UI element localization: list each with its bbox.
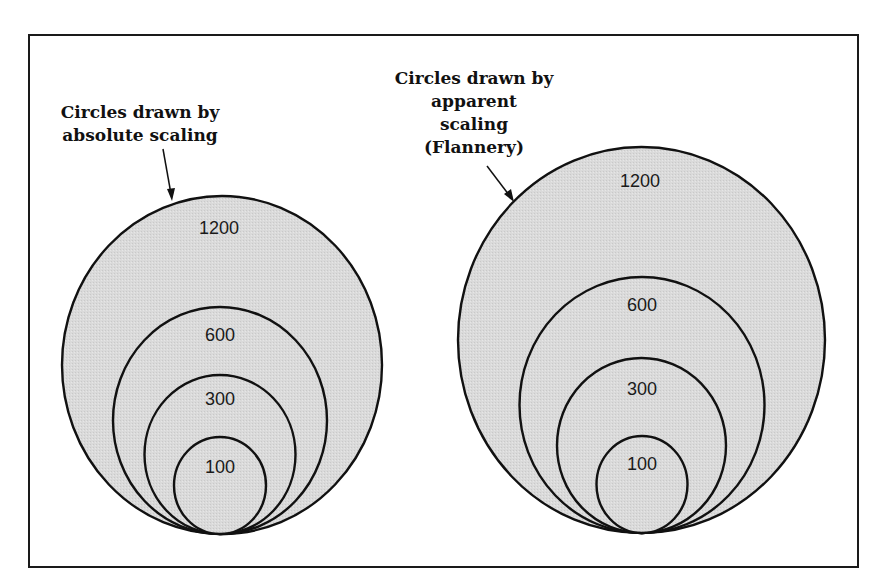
- proportional-circles-diagram: 1200 600 300 100 Circles drawn by absolu…: [0, 0, 883, 586]
- absolute-scaling-group: 1200 600 300 100 Circles drawn by absolu…: [61, 102, 382, 534]
- apparent-caption-line-4: (Flannery): [424, 137, 524, 157]
- absolute-caption-line-1: Circles drawn by: [61, 102, 221, 122]
- value-label-300-apparent: 300: [627, 379, 657, 399]
- value-label-100-absolute: 100: [205, 457, 235, 477]
- circle-100-absolute: [174, 437, 266, 534]
- absolute-pointer-arrow: [163, 149, 171, 194]
- apparent-caption-line-1: Circles drawn by: [395, 68, 555, 88]
- value-label-1200-apparent: 1200: [620, 171, 660, 191]
- circle-100-apparent: [597, 436, 688, 533]
- value-label-100-apparent: 100: [627, 454, 657, 474]
- value-label-600-absolute: 600: [205, 325, 235, 345]
- value-label-1200-absolute: 1200: [199, 218, 239, 238]
- value-label-300-absolute: 300: [205, 389, 235, 409]
- apparent-caption-line-2: apparent: [431, 91, 517, 111]
- apparent-pointer-arrow: [487, 166, 509, 195]
- absolute-arrowhead-icon: [167, 188, 175, 201]
- absolute-caption-line-2: absolute scaling: [62, 125, 217, 145]
- apparent-caption-line-3: scaling: [440, 114, 508, 134]
- value-label-600-apparent: 600: [627, 295, 657, 315]
- apparent-scaling-group: 1200 600 300 100 Circles drawn by appare…: [395, 68, 825, 533]
